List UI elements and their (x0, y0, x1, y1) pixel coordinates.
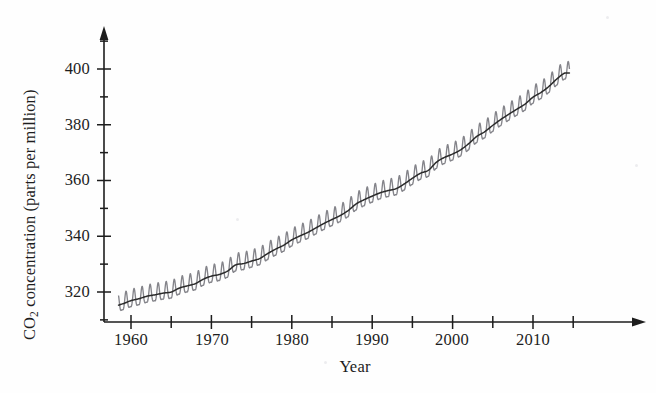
y-axis-title: CO2 concentration (parts per million) (20, 10, 46, 340)
scan-speck (236, 218, 239, 221)
chart-plot-area (0, 0, 656, 393)
x-axis-title: Year (339, 357, 370, 377)
y-axis-title-prefix: CO (20, 317, 39, 340)
smoothed-trend-line (119, 73, 570, 305)
xtick-label-1970: 1970 (195, 330, 229, 350)
scan-speck (635, 164, 638, 167)
xtick-label-2010: 2010 (516, 330, 550, 350)
scan-speck (324, 361, 327, 364)
seasonal-oscillation-band (119, 61, 570, 310)
x-axis (104, 318, 646, 327)
xtick-label-1960: 1960 (114, 330, 148, 350)
xtick-label-2000: 2000 (435, 330, 469, 350)
y-axis-title-suffix: concentration (parts per million) (20, 90, 39, 312)
y-axis-title-subscript: 2 (28, 311, 40, 317)
y-axis (100, 26, 109, 322)
co2-concentration-chart: 320 340 360 380 400 1960 1970 1980 1990 … (0, 0, 656, 393)
scan-speck (606, 16, 609, 19)
xtick-label-1990: 1990 (355, 330, 389, 350)
xtick-label-1980: 1980 (275, 330, 309, 350)
